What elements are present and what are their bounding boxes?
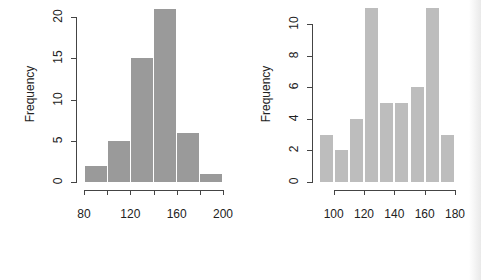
x-tick (364, 190, 365, 195)
histogram-left: 05101520Frequency80120160200 (0, 0, 240, 240)
y-tick (307, 56, 312, 57)
histogram-bar (85, 166, 107, 183)
y-tick (71, 182, 76, 183)
y-tick (307, 182, 312, 183)
histogram-bar (131, 58, 153, 182)
y-tick-label: 6 (287, 74, 301, 98)
histogram-bar (395, 103, 408, 182)
x-tick (455, 190, 456, 195)
y-tick (71, 141, 76, 142)
y-tick-label: 8 (287, 43, 301, 67)
y-tick (71, 58, 76, 59)
x-tick (84, 190, 85, 195)
x-tick (394, 190, 395, 195)
y-axis (312, 24, 313, 183)
y-tick-label: 0 (287, 169, 301, 193)
y-axis (76, 17, 77, 183)
y-tick (71, 17, 76, 18)
page-edge-shadow (469, 0, 481, 280)
y-tick-label: 5 (51, 128, 65, 152)
x-tick-label: 120 (116, 207, 144, 221)
histogram-bar (108, 141, 130, 182)
histogram-bar (335, 150, 348, 182)
histogram-bar (441, 135, 454, 182)
histogram-bar (426, 8, 439, 182)
y-axis-label: Frequency (259, 54, 273, 134)
histogram-bar (320, 135, 333, 182)
y-axis-label: Frequency (23, 54, 37, 134)
x-tick (107, 190, 108, 195)
y-tick (71, 100, 76, 101)
x-tick-label: 180 (441, 207, 469, 221)
y-tick (307, 119, 312, 120)
x-tick-label: 160 (411, 207, 439, 221)
x-tick (130, 190, 131, 195)
histogram-bar (200, 174, 222, 182)
y-tick-label: 2 (287, 137, 301, 161)
x-tick (334, 190, 335, 195)
x-tick (223, 190, 224, 195)
y-tick-label: 10 (51, 87, 65, 111)
histogram-right: 0246810Frequency100120140160180 (240, 0, 481, 240)
y-tick (307, 24, 312, 25)
x-tick (177, 190, 178, 195)
x-tick-label: 100 (320, 207, 348, 221)
y-tick (307, 150, 312, 151)
x-tick (425, 190, 426, 195)
x-tick-label: 140 (380, 207, 408, 221)
histogram-bar (177, 133, 199, 183)
histogram-bar (411, 87, 424, 182)
x-tick (200, 190, 201, 195)
y-tick-label: 15 (51, 45, 65, 69)
y-tick-label: 4 (287, 106, 301, 130)
x-tick (154, 190, 155, 195)
y-tick (307, 87, 312, 88)
histogram-bar (365, 8, 378, 182)
histogram-bar (380, 103, 393, 182)
y-tick-label: 20 (51, 4, 65, 28)
y-tick-label: 0 (51, 169, 65, 193)
x-tick-label: 200 (209, 207, 237, 221)
x-tick-label: 160 (163, 207, 191, 221)
histogram-bar (350, 119, 363, 182)
histogram-bar (154, 9, 176, 182)
y-tick-label: 10 (287, 11, 301, 35)
x-tick-label: 120 (350, 207, 378, 221)
x-tick-label: 80 (70, 207, 98, 221)
